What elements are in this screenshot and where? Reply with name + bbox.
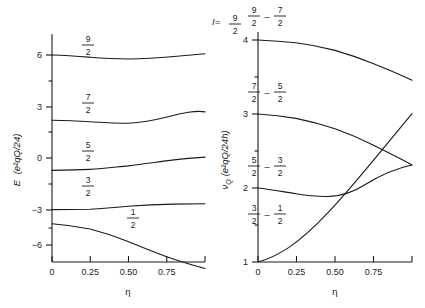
fraction-numerator: 9	[86, 34, 91, 44]
x-axis-ticks	[52, 256, 205, 262]
x-tick-label: 0.50	[120, 267, 138, 277]
spin-denominator: 2	[233, 26, 238, 36]
fraction-denominator: 2	[86, 47, 91, 57]
transition-label-7-2-5-2: 7 2 – 5 2	[248, 81, 286, 104]
y-axis-major-ticks	[46, 55, 52, 245]
fraction-numerator: 7	[278, 5, 283, 15]
y-tick-label: 2	[243, 183, 248, 193]
fraction-denominator: 2	[278, 18, 283, 28]
fraction-denominator: 2	[252, 168, 257, 178]
spin-label: I= 9 2	[212, 13, 241, 36]
fraction-denominator: 2	[86, 153, 91, 163]
curve-3-2	[52, 204, 205, 210]
y-axis-title: νQ(e²qQ/24h)	[219, 130, 233, 189]
y-tick-label: 3	[243, 109, 248, 119]
fraction-numerator: 7	[252, 81, 257, 91]
curve-5-2	[52, 157, 205, 170]
transition-frequencies-plot: 4 3 2 1 0 0.25 0.50 0.75 η νQ(e²qQ/24h)	[212, 0, 425, 308]
curve-9-2	[52, 54, 205, 59]
fraction-denominator: 2	[252, 216, 257, 226]
fraction-denominator: 2	[131, 220, 136, 230]
y-axis-title-units: (e²qQ/24)	[11, 134, 22, 175]
fraction-numerator: 3	[252, 203, 257, 213]
fraction-numerator: 5	[252, 155, 257, 165]
curve-label-9-2: 9 2	[82, 34, 94, 57]
y-tick-label: 0	[37, 153, 42, 163]
transition-dash: –	[264, 162, 269, 172]
transition-dash: –	[264, 12, 269, 22]
fraction-denominator: 2	[252, 94, 257, 104]
fraction-numerator: 7	[86, 92, 91, 102]
y-tick-label: 3	[37, 102, 42, 112]
x-tick-label: 0	[255, 267, 260, 277]
curve-label-5-2: 5 2	[82, 140, 94, 163]
transition-dash: –	[264, 210, 269, 220]
fraction-denominator: 2	[278, 216, 283, 226]
curve-9-2-7-2	[258, 40, 412, 80]
transition-label-3-2-1-2: 3 2 – 1 2	[248, 203, 286, 226]
y-tick-label: 4	[243, 35, 248, 45]
y-tick-label: 6	[37, 50, 42, 60]
svg-text:E (e²qQ/24): E (e²qQ/24)	[11, 134, 22, 187]
fraction-numerator: 5	[86, 140, 91, 150]
panel-energy-levels: 6 3 0 −3 −6 0 0.25 0.50 0.75 η E	[0, 0, 213, 308]
curve-label-3-2: 3 2	[82, 175, 94, 198]
fraction-numerator: 1	[131, 207, 136, 217]
svg-text:νQ(e²qQ/24h): νQ(e²qQ/24h)	[219, 130, 233, 189]
figure-root: 6 3 0 −3 −6 0 0.25 0.50 0.75 η E	[0, 0, 425, 308]
fraction-numerator: 3	[86, 175, 91, 185]
x-tick-label: 0.75	[158, 267, 176, 277]
fraction-denominator: 2	[86, 105, 91, 115]
transition-dash: –	[264, 88, 269, 98]
y-axis-title-units: (e²qQ/24h)	[219, 130, 230, 176]
fraction-denominator: 2	[278, 94, 283, 104]
y-tick-label: −6	[32, 240, 42, 250]
x-tick-label: 0.75	[365, 267, 383, 277]
spin-numerator: 9	[233, 13, 238, 23]
y-tick-label: 1	[243, 257, 248, 267]
panel-transition-frequencies: 4 3 2 1 0 0.25 0.50 0.75 η νQ(e²qQ/24h)	[212, 0, 425, 308]
x-axis-title: η	[332, 286, 337, 297]
x-tick-label: 0.50	[326, 267, 344, 277]
x-tick-label: 0.25	[288, 267, 306, 277]
fraction-numerator: 5	[278, 81, 283, 91]
y-tick-label: −3	[32, 205, 42, 215]
x-tick-label: 0.25	[81, 267, 99, 277]
fraction-denominator: 2	[252, 18, 257, 28]
y-axis-title-subscript: Q	[225, 179, 233, 185]
fraction-denominator: 2	[278, 168, 283, 178]
fraction-numerator: 9	[252, 5, 257, 15]
fraction-denominator: 2	[86, 188, 91, 198]
curve-label-7-2: 7 2	[82, 92, 94, 115]
transition-label-9-2-7-2: 9 2 – 7 2	[248, 5, 286, 28]
transition-label-5-2-3-2: 5 2 – 3 2	[248, 155, 286, 178]
fraction-numerator: 1	[278, 203, 283, 213]
x-tick-label: 0	[49, 267, 54, 277]
x-axis-title: η	[125, 286, 130, 297]
x-axis-ticks	[258, 256, 412, 262]
fraction-numerator: 3	[278, 155, 283, 165]
energy-levels-plot: 6 3 0 −3 −6 0 0.25 0.50 0.75 η E	[0, 0, 213, 308]
spin-label-text: I=	[212, 16, 221, 27]
y-axis-title: E (e²qQ/24)	[11, 134, 22, 187]
y-axis-title-symbol: E	[11, 179, 22, 186]
curve-7-2	[52, 111, 205, 123]
curve-label-1-2: 1 2	[127, 207, 139, 230]
curve-3-2-1-2	[258, 114, 412, 262]
